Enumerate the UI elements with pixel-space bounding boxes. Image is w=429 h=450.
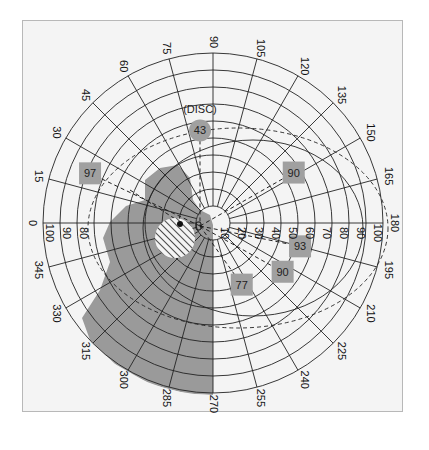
polar-perimetry-chart: 43(DISC)9790939077 015304560759010512013… bbox=[0, 0, 429, 450]
data-value-3: 90 bbox=[277, 266, 289, 278]
angle-label-90: 90 bbox=[208, 36, 220, 48]
angle-label-285: 285 bbox=[161, 389, 173, 407]
angle-label-15: 15 bbox=[33, 170, 45, 182]
radial-label-70: 70 bbox=[321, 227, 333, 239]
radial-label-10: 10 bbox=[219, 227, 231, 239]
scotoma-region bbox=[82, 165, 213, 395]
angle-label-0: 0 bbox=[27, 220, 39, 226]
angle-label-30: 30 bbox=[51, 126, 63, 138]
data-value-0: 97 bbox=[84, 167, 96, 179]
angle-label-120: 120 bbox=[299, 57, 311, 75]
disc-value: 43 bbox=[194, 124, 206, 136]
radial-label-30: 30 bbox=[253, 227, 265, 239]
angle-label-180: 180 bbox=[389, 214, 401, 232]
angle-label-210: 210 bbox=[365, 304, 377, 322]
angle-label-135: 135 bbox=[336, 86, 348, 104]
angle-label-345: 345 bbox=[33, 261, 45, 279]
data-value-4: 77 bbox=[236, 279, 248, 291]
disc-label: (DISC) bbox=[183, 103, 217, 115]
radial-label-left-100: 100 bbox=[44, 224, 56, 242]
radial-label-100: 100 bbox=[372, 224, 384, 242]
angle-label-45: 45 bbox=[80, 89, 92, 101]
radial-label-80: 80 bbox=[338, 227, 350, 239]
angle-label-255: 255 bbox=[255, 389, 267, 407]
angle-label-300: 300 bbox=[118, 371, 130, 389]
radial-label-left-90: 90 bbox=[61, 227, 73, 239]
data-value-2: 93 bbox=[294, 240, 306, 252]
scotoma-polygon bbox=[82, 165, 213, 395]
hatched-circle bbox=[155, 218, 195, 258]
angle-label-225: 225 bbox=[336, 342, 348, 360]
angle-label-150: 150 bbox=[365, 123, 377, 141]
angle-label-60: 60 bbox=[118, 60, 130, 72]
radial-label-60: 60 bbox=[304, 227, 316, 239]
angle-label-240: 240 bbox=[299, 371, 311, 389]
radial-label-20: 20 bbox=[236, 227, 248, 239]
leader-line-2 bbox=[200, 226, 300, 246]
data-value-1: 90 bbox=[288, 167, 300, 179]
angle-label-270: 270 bbox=[208, 395, 220, 413]
radial-label-90: 90 bbox=[355, 227, 367, 239]
fixation-dot bbox=[177, 221, 183, 227]
angle-label-75: 75 bbox=[161, 42, 173, 54]
angle-label-330: 330 bbox=[51, 304, 63, 322]
radial-label-left-80: 80 bbox=[78, 227, 90, 239]
radial-label-40: 40 bbox=[270, 227, 282, 239]
axis-labels: 0153045607590105120135150165180195210225… bbox=[27, 36, 401, 413]
angle-label-105: 105 bbox=[255, 39, 267, 57]
angle-label-195: 195 bbox=[383, 261, 395, 279]
radial-label-50: 50 bbox=[287, 227, 299, 239]
angle-label-165: 165 bbox=[383, 167, 395, 185]
angle-label-315: 315 bbox=[80, 342, 92, 360]
